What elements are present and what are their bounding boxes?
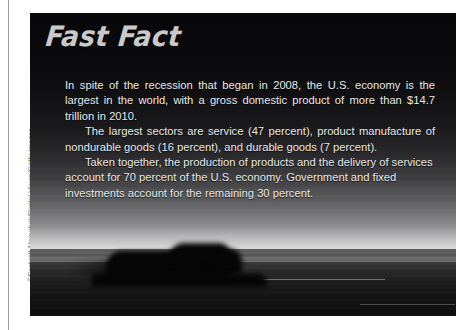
page-title: Fast Fact — [44, 20, 183, 53]
paragraph-products-and-services: Taken together, the production of produc… — [65, 155, 435, 201]
truck-shadow — [92, 274, 267, 287]
fast-fact-figure: ©Eastcott Momatiuk/Digital Vision/Getty … — [0, 0, 462, 330]
truck-hood — [212, 249, 242, 275]
left-margin-rule — [8, 0, 9, 330]
fact-body-copy: In spite of the recession that began in … — [65, 78, 435, 201]
truck-silhouette — [72, 241, 267, 289]
paragraph-largest-sectors: The largest sectors are service (47 perc… — [65, 124, 435, 155]
paragraph-economy-size: In spite of the recession that began in … — [65, 78, 435, 124]
motion-streak-secondary — [360, 304, 455, 305]
